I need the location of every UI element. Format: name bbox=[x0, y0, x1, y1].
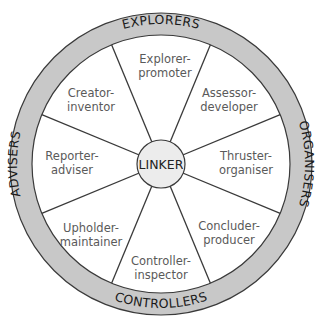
role-creator-inventor: Creator- inventor bbox=[67, 86, 115, 114]
role-line2: organiser bbox=[219, 163, 273, 177]
role-line2: inventor bbox=[67, 100, 115, 114]
role-concluder-producer: Concluder- producer bbox=[198, 219, 260, 247]
role-explorer-promoter: Explorer- promoter bbox=[138, 52, 192, 80]
role-controller-inspector: Controller- inspector bbox=[131, 254, 191, 282]
role-line1: Explorer- bbox=[139, 52, 190, 66]
team-wheel-diagram: LINKER EXPLORERS ORGANISERS CONTROLLERS … bbox=[0, 0, 322, 331]
role-line1: Thruster- bbox=[219, 149, 272, 163]
role-upholder-maintainer: Upholder- maintainer bbox=[60, 221, 123, 249]
role-line2: developer bbox=[200, 100, 258, 114]
linker-label: LINKER bbox=[139, 157, 184, 172]
role-assessor-developer: Assessor- developer bbox=[200, 86, 258, 114]
role-thruster-organiser: Thruster- organiser bbox=[219, 149, 273, 177]
role-line2: producer bbox=[203, 233, 255, 247]
role-reporter-adviser: Reporter- adviser bbox=[45, 149, 98, 177]
role-line2: inspector bbox=[134, 268, 188, 282]
role-line1: Reporter- bbox=[45, 149, 98, 163]
role-line2: maintainer bbox=[60, 235, 123, 249]
role-line1: Creator- bbox=[68, 86, 114, 100]
role-line2: promoter bbox=[138, 66, 192, 80]
role-line1: Controller- bbox=[131, 254, 191, 268]
role-line1: Concluder- bbox=[198, 219, 260, 233]
linker-hub: LINKER bbox=[137, 140, 185, 188]
role-line1: Upholder- bbox=[63, 221, 119, 235]
role-line2: adviser bbox=[51, 163, 93, 177]
role-line1: Assessor- bbox=[202, 86, 256, 100]
